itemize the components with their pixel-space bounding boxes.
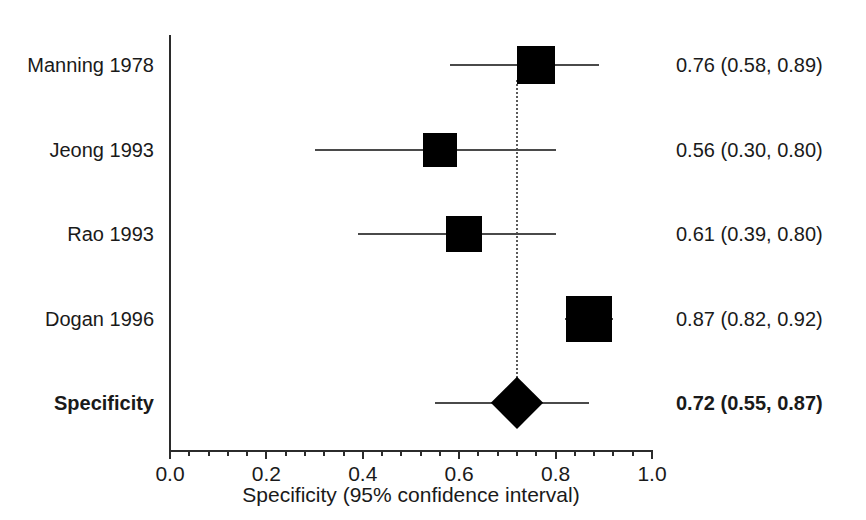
study-value-label: 0.56 (0.30, 0.80)	[676, 140, 823, 160]
x-axis-minor-tick	[420, 450, 422, 456]
x-axis-minor-tick	[227, 450, 229, 456]
x-axis-tick-label: 0.2	[252, 463, 281, 484]
x-axis-major-tick	[169, 450, 171, 459]
study-value-label: 0.61 (0.39, 0.80)	[676, 224, 823, 244]
x-axis-title: Specificity (95% confidence interval)	[242, 484, 579, 505]
x-axis-major-tick	[265, 450, 267, 459]
x-axis-minor-tick	[497, 450, 499, 456]
x-axis-minor-tick	[477, 450, 479, 456]
x-axis-minor-tick	[323, 450, 325, 456]
x-axis-minor-tick	[439, 450, 441, 456]
study-square-marker	[446, 216, 482, 252]
study-label: Rao 1993	[0, 224, 160, 244]
x-axis-minor-tick	[593, 450, 595, 456]
x-axis-major-tick	[362, 450, 364, 459]
x-axis-minor-tick	[246, 450, 248, 456]
study-label: Dogan 1996	[0, 309, 160, 329]
x-axis-tick-label: 0.8	[541, 463, 570, 484]
x-axis-minor-tick	[381, 450, 383, 456]
reference-line	[516, 80, 518, 410]
study-square-marker	[423, 133, 457, 167]
x-axis-minor-tick	[188, 450, 190, 456]
x-axis-minor-tick	[632, 450, 634, 456]
study-label: Jeong 1993	[0, 140, 160, 160]
x-axis-major-tick	[555, 450, 557, 459]
summary-diamond-marker	[491, 377, 544, 430]
x-axis-minor-tick	[535, 450, 537, 456]
summary-label: Specificity	[0, 393, 160, 413]
x-axis-minor-tick	[343, 450, 345, 456]
x-axis-tick-label: 0.4	[348, 463, 377, 484]
x-axis-minor-tick	[208, 450, 210, 456]
forest-plot: Manning 19780.76 (0.58, 0.89)Jeong 19930…	[0, 0, 866, 520]
x-axis-minor-tick	[400, 450, 402, 456]
study-square-marker	[517, 46, 555, 84]
x-axis-major-tick	[651, 450, 653, 459]
x-axis-major-tick	[458, 450, 460, 459]
summary-value-label: 0.72 (0.55, 0.87)	[676, 393, 823, 413]
y-axis-line	[169, 35, 171, 451]
x-axis-tick-label: 1.0	[637, 463, 666, 484]
study-value-label: 0.87 (0.82, 0.92)	[676, 309, 823, 329]
study-value-label: 0.76 (0.58, 0.89)	[676, 55, 823, 75]
x-axis-minor-tick	[612, 450, 614, 456]
study-square-marker	[566, 296, 612, 342]
x-axis-minor-tick	[574, 450, 576, 456]
x-axis-tick-label: 0.6	[445, 463, 474, 484]
x-axis-minor-tick	[304, 450, 306, 456]
x-axis-line	[169, 450, 653, 452]
study-label: Manning 1978	[0, 55, 160, 75]
x-axis-tick-label: 0.0	[155, 463, 184, 484]
x-axis-minor-tick	[285, 450, 287, 456]
x-axis-minor-tick	[516, 450, 518, 456]
